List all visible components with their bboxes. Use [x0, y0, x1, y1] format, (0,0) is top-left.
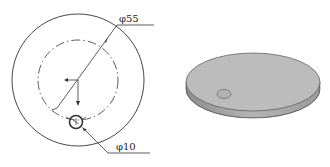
drawing-canvas: φ55 φ10 [0, 0, 330, 167]
plan-view [12, 14, 154, 153]
phi55-label: φ55 [119, 13, 139, 24]
isometric-view [186, 53, 320, 118]
disc-top [186, 53, 320, 111]
phi10-label: φ10 [116, 141, 136, 152]
technical-drawing [0, 0, 330, 167]
disc-hole [217, 90, 231, 99]
phi55-leader [52, 25, 154, 110]
